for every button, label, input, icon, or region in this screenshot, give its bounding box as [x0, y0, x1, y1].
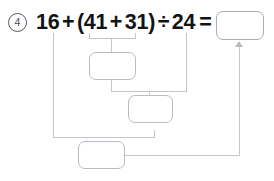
bracket-right-tick — [135, 33, 136, 39]
expression-token-plus-1: + — [62, 10, 74, 35]
connector-line-16-stub — [154, 130, 155, 137]
expression: 16 + (41 + 31) ÷ 24 = — [36, 8, 212, 36]
expression-token-open-paren-41: (41 — [77, 10, 107, 35]
connector-arrow-shaft — [239, 47, 240, 156]
expression-token-24: 24 — [172, 10, 196, 35]
step-3-box[interactable] — [78, 141, 125, 169]
step-2-box[interactable] — [128, 95, 173, 123]
step-1-box[interactable] — [89, 52, 136, 80]
expression-token-divide: ÷ — [158, 10, 170, 35]
arrow-up-icon — [235, 41, 243, 47]
expression-token-16: 16 — [36, 10, 60, 35]
expression-token-equals: = — [199, 10, 211, 35]
expression-token-31-close-paren: 31) — [125, 10, 155, 35]
bracket-span — [89, 38, 136, 39]
worksheet-problem-canvas: 4 16 + (41 + 31) ÷ 24 = — [0, 0, 274, 181]
connector-line-16-vertical — [53, 33, 54, 138]
problem-number: 4 — [8, 13, 27, 32]
expression-token-plus-2: + — [110, 10, 122, 35]
connector-line-24-vertical — [186, 33, 187, 92]
answer-box[interactable] — [216, 11, 264, 40]
bracket-stem — [111, 38, 112, 52]
connector-step3-to-arrow-horizontal — [125, 155, 240, 156]
connector-line-16-horizontal — [53, 137, 155, 138]
